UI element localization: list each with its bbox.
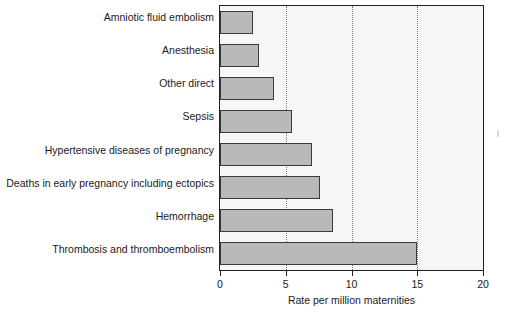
bar-row xyxy=(220,44,483,67)
bar-row xyxy=(220,176,483,199)
category-label: Anesthesia xyxy=(162,44,214,56)
category-label: Hypertensive diseases of pregnancy xyxy=(45,144,214,156)
tick-mark-10 xyxy=(352,271,353,276)
bar-amniotic-fluid-embolism xyxy=(220,11,253,34)
bar-row xyxy=(220,110,483,133)
bar-chart-figure: Amniotic fluid embolism Anesthesia Other… xyxy=(0,0,506,313)
bar-hemorrhage xyxy=(220,209,333,232)
bar-hypertensive-diseases-of-pregnancy xyxy=(220,143,312,166)
bar-thrombosis-and-thromboembolism xyxy=(220,242,417,265)
tick-mark-20 xyxy=(483,271,484,276)
category-label: Thrombosis and thromboembolism xyxy=(52,243,214,255)
tick-label-20: 20 xyxy=(477,278,489,290)
tick-mark-0 xyxy=(220,271,221,276)
category-label: Other direct xyxy=(159,77,214,89)
tick-label-15: 15 xyxy=(411,278,423,290)
bar-row xyxy=(220,143,483,166)
bar-row xyxy=(220,209,483,232)
tick-label-10: 10 xyxy=(346,278,358,290)
bar-other-direct xyxy=(220,77,274,100)
category-label: Sepsis xyxy=(182,110,214,122)
tick-mark-15 xyxy=(417,271,418,276)
category-label: Deaths in early pregnancy including ecto… xyxy=(6,177,214,189)
x-axis-title: Rate per million maternities xyxy=(219,294,484,306)
bar-anesthesia xyxy=(220,44,259,67)
tick-label-0: 0 xyxy=(217,278,223,290)
plot-area xyxy=(219,5,484,271)
category-label: Hemorrhage xyxy=(156,210,214,222)
bar-sepsis xyxy=(220,110,292,133)
bar-deaths-in-early-pregnancy-including-ectopics xyxy=(220,176,320,199)
tick-mark-5 xyxy=(286,271,287,276)
plot-inner xyxy=(220,6,483,270)
bar-row xyxy=(220,77,483,100)
bar-row xyxy=(220,11,483,34)
scan-artifact xyxy=(497,130,499,137)
tick-label-5: 5 xyxy=(283,278,289,290)
bar-row xyxy=(220,242,483,265)
category-label: Amniotic fluid embolism xyxy=(104,11,214,23)
